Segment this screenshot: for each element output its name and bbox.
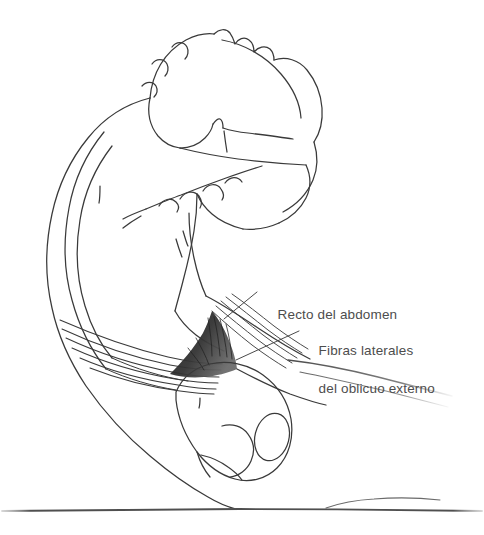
label-fibras-line1: Fibras laterales (319, 343, 414, 358)
head-right-contour (274, 58, 322, 142)
forearm-tendon-tick (224, 131, 227, 152)
flank-depth-line (77, 146, 112, 358)
torso-group (47, 98, 262, 509)
pelvis-group (176, 362, 294, 480)
label-fibras-laterales: Fibras laterales del oblicuo externo (303, 322, 435, 417)
label-recto-text: Recto del abdomen (278, 307, 398, 322)
leader-line-recto (224, 292, 257, 319)
mat-bump-right (326, 498, 440, 508)
forearm-top-edge (213, 119, 223, 128)
knuckle-arc-2 (152, 60, 168, 77)
costal-arch-line (146, 166, 262, 209)
armpit-line (243, 223, 279, 229)
knuckles-outline (214, 30, 274, 60)
jaw-contour (149, 98, 180, 148)
shoulder-contour (283, 142, 317, 212)
rib-scallop-4 (225, 178, 242, 183)
anatomy-illustration: Recto del abdomen y fibras laterales del… (0, 0, 484, 535)
back-outer-contour (47, 98, 236, 509)
knuckle-arc-3 (142, 82, 157, 97)
knuckle-arc-1 (172, 43, 188, 60)
flank-tick (99, 186, 100, 203)
pelvis-outline (176, 362, 292, 480)
label-fibras-line2: del oblicuo externo (319, 381, 435, 396)
ground-group (2, 509, 482, 511)
ilium-tick (199, 398, 200, 408)
rectus-tick-2 (183, 231, 188, 246)
rectus-midline (189, 213, 206, 296)
forearm-crease (223, 128, 293, 139)
rib-line-left (123, 209, 146, 219)
pubic-ramus (222, 425, 253, 477)
chest-underline (197, 194, 243, 229)
abdomen-front-contour (175, 194, 197, 311)
scalp-inner-line (222, 40, 301, 118)
chin-line (180, 124, 213, 148)
anatomy-figure: Recto del abdomen y fibras laterales del… (0, 0, 484, 535)
forearm-lower-edge (180, 148, 306, 165)
rib-scallop-1 (159, 199, 178, 212)
rib-scallop-2 (180, 192, 201, 208)
head-and-hands-group (142, 30, 322, 165)
rib-scallop-3 (203, 185, 223, 200)
acetabulum (250, 410, 295, 465)
upper-arm-group (243, 142, 317, 229)
rectus-tick-1 (176, 239, 182, 257)
oblique-dark-wedge (170, 311, 237, 377)
ground-line (2, 509, 482, 511)
